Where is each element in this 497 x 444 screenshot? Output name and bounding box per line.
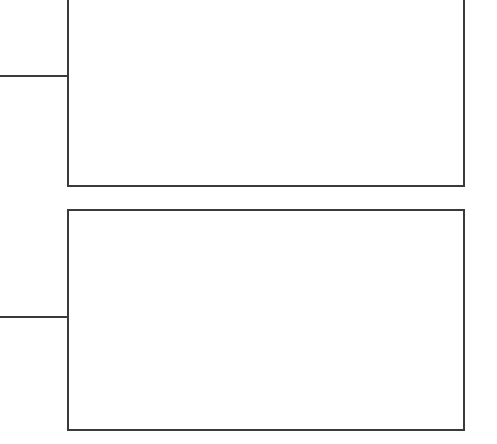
diagram-node-2	[67, 209, 465, 431]
connector-line-1	[0, 75, 68, 77]
diagram-canvas	[0, 0, 497, 444]
connector-line-2	[0, 316, 68, 318]
diagram-node-1	[67, 0, 465, 187]
